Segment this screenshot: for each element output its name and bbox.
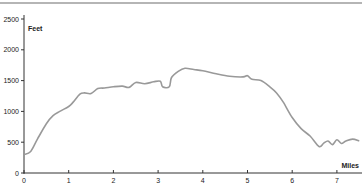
x-tick-label: 1 [67,177,71,184]
x-tick-label: 2 [111,177,115,184]
x-tick-label: 6 [290,177,294,184]
x-tick-label: 7 [335,177,339,184]
y-axis-title: Feet [28,25,43,32]
y-tick-label: 1000 [3,108,19,115]
x-tick-label: 0 [22,177,26,184]
y-tick-label: 2500 [3,16,19,23]
x-tick-label: 4 [201,177,205,184]
y-tick-label: 1500 [3,77,19,84]
y-tick-label: 500 [7,139,19,146]
y-tick-label: 0 [15,170,19,177]
x-tick-label: 3 [156,177,160,184]
elevation-chart: 0500100015002000250001234567 Feet Miles [0,0,362,195]
y-tick-label: 2000 [3,46,19,53]
x-axis-title: Miles [341,162,359,169]
elevation-line [24,68,359,154]
x-tick-label: 5 [246,177,250,184]
axes: 0500100015002000250001234567 [3,15,362,184]
